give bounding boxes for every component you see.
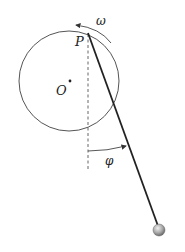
pivot-label: P — [74, 34, 84, 49]
center-point — [69, 80, 72, 83]
angle-arc-icon — [88, 146, 126, 151]
pendulum-rod — [88, 33, 158, 226]
pendulum-bob — [153, 224, 165, 236]
angle-label: φ — [105, 154, 114, 168]
pendulum-diagram: O ω P φ — [0, 0, 185, 252]
center-label: O — [56, 83, 67, 98]
angular-velocity-label: ω — [96, 14, 106, 28]
